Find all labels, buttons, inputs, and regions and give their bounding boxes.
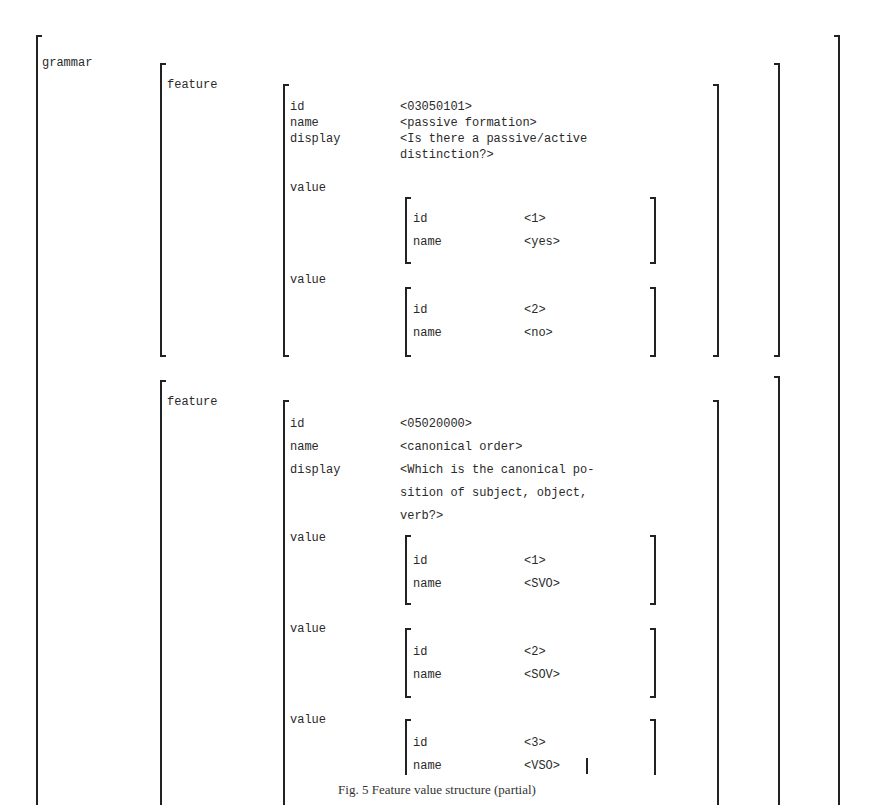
feature-2-value-1-name: <SVO> xyxy=(524,576,560,592)
feature-1-value-1-id-key: id xyxy=(413,211,427,227)
feature-1-value-2-name-key: name xyxy=(413,325,442,341)
feature-1-bracket-right xyxy=(774,63,780,357)
feature-2-value-3-name-key: name xyxy=(413,758,442,774)
feature-1-value-1-bracket-right xyxy=(650,197,656,264)
feature-1-value-1-bracket-left xyxy=(405,197,411,264)
feature-2-value-2-bracket-right xyxy=(650,628,656,698)
feature-1-id-value: <03050101> xyxy=(400,99,472,115)
feature-2-value-1-bracket-left xyxy=(405,535,411,605)
feature-2-id-value: <05020000> xyxy=(400,416,472,432)
feature-2-display-key: display xyxy=(290,462,340,478)
feature-1-value-2-name: <no> xyxy=(524,325,553,341)
feature-1-value-1-id: <1> xyxy=(524,211,546,227)
feature-1-display-key: display xyxy=(290,131,340,147)
feature-1-value-2-label: value xyxy=(290,272,326,288)
feature-2-label: feature xyxy=(167,394,217,410)
feature-2-display-value-line2: sition of subject, object, xyxy=(400,485,587,501)
feature-1-value-2-bracket-right xyxy=(650,287,656,357)
feature-2-attrs-bracket-left xyxy=(283,400,289,805)
feature-1-attrs-bracket-left xyxy=(283,84,289,357)
feature-1-name-value: <passive formation> xyxy=(400,115,537,131)
feature-2-attrs-bracket-right xyxy=(713,400,719,805)
feature-2-display-value-line3: verb?> xyxy=(400,508,443,524)
feature-1-value-2-id: <2> xyxy=(524,302,546,318)
feature-2-value-3-bracket-left xyxy=(405,719,411,775)
feature-2-name-value: <canonical order> xyxy=(400,439,522,455)
feature-2-value-3-label: value xyxy=(290,712,326,728)
feature-2-value-3-name: <VSO> xyxy=(524,758,560,774)
feature-2-value-1-id: <1> xyxy=(524,553,546,569)
feature-2-value-1-bracket-right xyxy=(650,535,656,605)
feature-1-value-2-id-key: id xyxy=(413,302,427,318)
feature-1-value-1-label: value xyxy=(290,180,326,196)
feature-1-display-value-line2: distinction?> xyxy=(400,147,494,163)
feature-1-display-value: <Is there a passive/active xyxy=(400,131,587,147)
feature-2-bracket-left xyxy=(160,380,166,805)
feature-1-label: feature xyxy=(167,77,217,93)
feature-2-value-2-label: value xyxy=(290,621,326,637)
feature-2-value-3-id-key: id xyxy=(413,735,427,751)
feature-1-name-key: name xyxy=(290,115,319,131)
feature-1-value-2-bracket-left xyxy=(405,287,411,357)
feature-2-value-3-id: <3> xyxy=(524,735,546,751)
grammar-bracket-right xyxy=(834,35,840,805)
feature-2-value-2-name: <SOV> xyxy=(524,667,560,683)
feature-2-value-2-name-key: name xyxy=(413,667,442,683)
feature-2-name-key: name xyxy=(290,439,319,455)
feature-2-value-2-id-key: id xyxy=(413,644,427,660)
feature-2-bracket-right xyxy=(774,376,780,805)
feature-2-value-1-name-key: name xyxy=(413,576,442,592)
figure-caption: Fig. 5 Feature value structure (partial) xyxy=(0,782,874,798)
feature-2-value-1-label: value xyxy=(290,530,326,546)
feature-1-value-1-name-key: name xyxy=(413,234,442,250)
feature-1-bracket-left xyxy=(160,63,166,357)
grammar-label: grammar xyxy=(42,55,92,71)
feature-2-value-3-bracket-right xyxy=(650,719,656,775)
feature-2-value-1-id-key: id xyxy=(413,553,427,569)
feature-2-value-2-id: <2> xyxy=(524,644,546,660)
feature-1-attrs-bracket-right xyxy=(713,84,719,357)
feature-1-value-1-name: <yes> xyxy=(524,234,560,250)
grammar-bracket-left xyxy=(36,35,42,805)
feature-2-display-value: <Which is the canonical po- xyxy=(400,462,594,478)
feature-1-id-key: id xyxy=(290,99,304,115)
feature-2-value-2-bracket-left xyxy=(405,628,411,698)
text-cursor xyxy=(586,758,588,774)
feature-2-id-key: id xyxy=(290,416,304,432)
